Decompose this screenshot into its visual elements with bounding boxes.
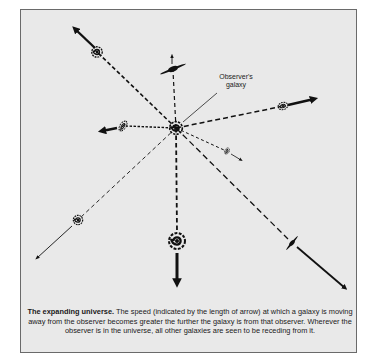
observer-pointer-line — [183, 93, 217, 122]
arrow-left — [102, 128, 117, 131]
galaxy-right — [277, 101, 288, 110]
observer-galaxy-label: Observer's galaxy — [212, 73, 260, 89]
arrow-lower-left — [37, 226, 72, 258]
observer-label-line2: galaxy — [212, 81, 260, 89]
arrow-upper-left — [75, 29, 95, 48]
arrow-right — [288, 99, 314, 105]
figure-caption: The expanding universe. The speed (indic… — [26, 307, 354, 336]
arrow-lower-right — [297, 247, 345, 288]
velocity-arrows — [37, 29, 345, 288]
caption-title: The expanding universe. — [27, 307, 114, 316]
galaxy-top-edgeon — [159, 61, 187, 76]
arrow-right-small — [231, 154, 241, 160]
galaxy-bottom — [169, 233, 185, 249]
galaxy-right-small — [223, 147, 230, 155]
observer-label-line1: Observer's — [212, 73, 260, 81]
galaxy-upper-left — [92, 47, 102, 57]
